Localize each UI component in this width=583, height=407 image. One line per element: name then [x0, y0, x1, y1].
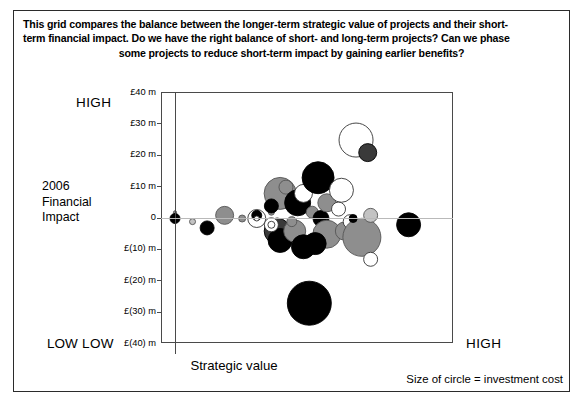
y-tick-mark: [157, 280, 162, 281]
bubble-layer: [12, 91, 462, 347]
bubble-point: [216, 206, 234, 224]
x-axis-high-label: HIGH: [466, 336, 501, 351]
x-axis-title: Strategic value: [14, 358, 454, 373]
bubble-point: [200, 221, 214, 235]
bubble-point: [329, 178, 353, 202]
bubble-point: [190, 219, 196, 225]
center-divider-line: [175, 92, 176, 354]
bubble-point: [332, 202, 346, 216]
y-tick-mark: [157, 155, 162, 156]
bubble-point: [287, 281, 331, 325]
bubble-point: [343, 218, 381, 256]
bubble-point: [264, 199, 278, 213]
zero-reference-line: [161, 218, 453, 219]
bubble-point: [359, 144, 377, 162]
slide-container: This grid compares the balance between t…: [13, 10, 570, 392]
bubble-point: [397, 213, 421, 237]
bubble-point: [364, 252, 378, 266]
bubble-chart: HIGH LOW 2006 Financial Impact £40 m£30 …: [14, 11, 571, 393]
y-tick-mark: [157, 249, 162, 250]
bubble-point: [349, 215, 357, 223]
y-tick-mark: [157, 312, 162, 313]
y-tick-mark: [157, 123, 162, 124]
legend-note: Size of circle = investment cost: [406, 373, 563, 385]
x-axis-low-label: LOW: [47, 336, 78, 351]
y-tick-mark: [157, 186, 162, 187]
bubble-point: [239, 215, 246, 222]
bubble-point: [364, 208, 378, 222]
bubble-point: [304, 233, 326, 255]
bubble-point: [268, 221, 275, 228]
